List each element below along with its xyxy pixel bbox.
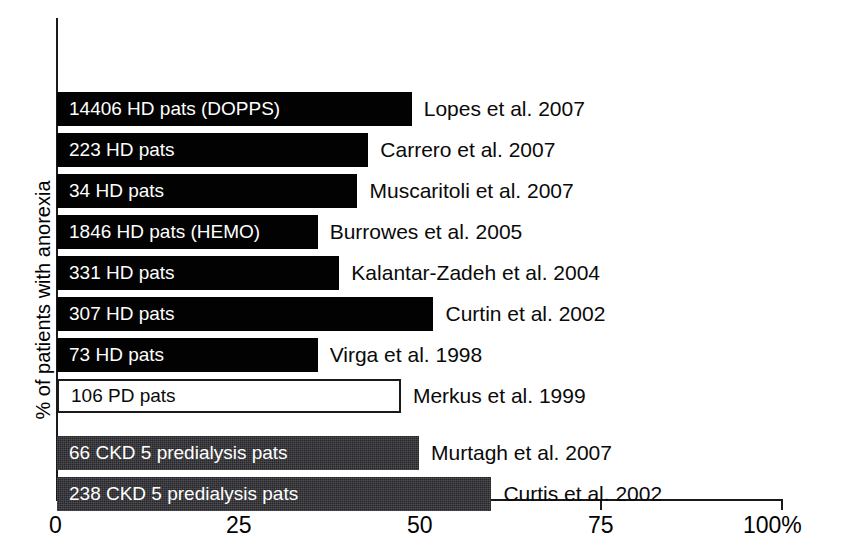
plot-area: 14406 HD pats (DOPPS)Lopes et al. 200722…: [0, 0, 844, 559]
bar-row: 1846 HD pats (HEMO)Burrowes et al. 2005: [0, 215, 844, 249]
bar-series-label: Virga et al. 1998: [330, 343, 483, 367]
bar-row: 73 HD patsVirga et al. 1998: [0, 338, 844, 372]
bar-series-label: Merkus et al. 1999: [413, 384, 586, 408]
bar-chart: % of patients with anorexia 0255075100% …: [0, 0, 844, 559]
bar-inner-label: 331 HD pats: [69, 262, 175, 284]
bar-row: 14406 HD pats (DOPPS)Lopes et al. 2007: [0, 92, 844, 126]
bar-series-label: Carrero et al. 2007: [380, 138, 555, 162]
bar[interactable]: 1846 HD pats (HEMO): [57, 215, 318, 249]
bar-series-label: Burrowes et al. 2005: [330, 220, 523, 244]
bar-row: 238 CKD 5 predialysis patsCurtis et al. …: [0, 477, 844, 511]
bar-inner-label: 73 HD pats: [69, 344, 164, 366]
bar-series-label: Curtis et al. 2002: [503, 482, 662, 506]
bar-series-label: Lopes et al. 2007: [424, 97, 585, 121]
bar[interactable]: 238 CKD 5 predialysis pats: [57, 477, 491, 511]
bar[interactable]: 14406 HD pats (DOPPS): [57, 92, 412, 126]
bar-row: 307 HD patsCurtin et al. 2002: [0, 297, 844, 331]
bar-inner-label: 223 HD pats: [69, 139, 175, 161]
bar-row: 106 PD patsMerkus et al. 1999: [0, 379, 844, 413]
bar-series-label: Curtin et al. 2002: [445, 302, 605, 326]
bar-inner-label: 14406 HD pats (DOPPS): [69, 98, 280, 120]
bar[interactable]: 331 HD pats: [57, 256, 339, 290]
bar[interactable]: 34 HD pats: [57, 174, 357, 208]
bar[interactable]: 307 HD pats: [57, 297, 433, 331]
bar[interactable]: 106 PD pats: [57, 379, 401, 413]
bar-row: 223 HD patsCarrero et al. 2007: [0, 133, 844, 167]
bar-inner-label: 307 HD pats: [69, 303, 175, 325]
bar-inner-label: 66 CKD 5 predialysis pats: [69, 442, 288, 464]
bar-inner-label: 106 PD pats: [71, 385, 176, 407]
bar-row: 331 HD patsKalantar-Zadeh et al. 2004: [0, 256, 844, 290]
bar[interactable]: 73 HD pats: [57, 338, 318, 372]
bar[interactable]: 223 HD pats: [57, 133, 368, 167]
bar-row: 34 HD patsMuscaritoli et al. 2007: [0, 174, 844, 208]
bar-inner-label: 238 CKD 5 predialysis pats: [69, 483, 298, 505]
bar-inner-label: 34 HD pats: [69, 180, 164, 202]
bar[interactable]: 66 CKD 5 predialysis pats: [57, 436, 419, 470]
bar-series-label: Murtagh et al. 2007: [431, 441, 612, 465]
bar-row: 66 CKD 5 predialysis patsMurtagh et al. …: [0, 436, 844, 470]
bar-series-label: Kalantar-Zadeh et al. 2004: [351, 261, 600, 285]
bar-inner-label: 1846 HD pats (HEMO): [69, 221, 260, 243]
bar-series-label: Muscaritoli et al. 2007: [369, 179, 573, 203]
